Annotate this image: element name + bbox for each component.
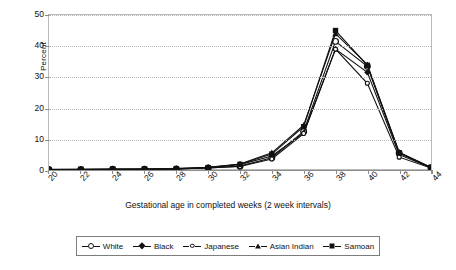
legend-label: Samoan xyxy=(344,242,374,251)
y-tick-mark xyxy=(45,140,49,141)
series-line xyxy=(49,31,431,170)
y-tick-label: 20 xyxy=(26,103,44,113)
data-point xyxy=(365,63,370,68)
plot-area xyxy=(48,14,432,170)
chart-container: Percent 01020304050 20222426283032343638… xyxy=(0,0,456,270)
gridline xyxy=(49,109,431,110)
x-axis-title: Gestational age in completed weeks (2 we… xyxy=(0,200,456,210)
y-tick-label: 0 xyxy=(26,165,44,175)
data-point xyxy=(333,28,338,33)
series-asian-indian xyxy=(49,30,431,170)
data-point xyxy=(334,47,338,51)
data-point xyxy=(301,124,306,129)
legend-label: Japanese xyxy=(204,242,239,251)
data-point xyxy=(397,155,401,159)
data-point xyxy=(237,162,242,167)
series-line xyxy=(49,34,431,170)
chart-legend: WhiteBlackJapaneseAsian IndianSamoan xyxy=(76,236,380,256)
gridline xyxy=(49,140,431,141)
data-point xyxy=(270,157,274,161)
legend-item-asian-indian[interactable]: Asian Indian xyxy=(249,241,314,251)
x-axis-tick-labels: 20222426283032343638404244 xyxy=(48,174,432,200)
legend-label: Asian Indian xyxy=(270,242,314,251)
data-point xyxy=(269,151,274,156)
gridline xyxy=(49,15,431,16)
gridline xyxy=(49,46,431,47)
data-point xyxy=(302,132,306,136)
y-tick-mark xyxy=(45,77,49,78)
legend-item-samoan[interactable]: Samoan xyxy=(323,241,374,251)
gridline xyxy=(49,77,431,78)
legend-item-white[interactable]: White xyxy=(82,241,123,251)
y-tick-mark xyxy=(45,46,49,47)
series-white xyxy=(49,38,431,170)
legend-label: White xyxy=(103,242,123,251)
legend-item-japanese[interactable]: Japanese xyxy=(183,241,239,251)
legend-item-black[interactable]: Black xyxy=(133,241,174,251)
series-canvas xyxy=(49,15,431,170)
legend-label: Black xyxy=(154,242,174,251)
y-axis-tick-labels: 01020304050 xyxy=(24,0,44,270)
legend-marker-icon xyxy=(183,241,201,251)
legend-marker-icon xyxy=(249,241,267,251)
y-tick-label: 50 xyxy=(26,9,44,19)
series-line xyxy=(49,41,431,169)
y-tick-mark xyxy=(45,15,49,16)
legend-marker-icon xyxy=(323,241,341,251)
y-tick-label: 30 xyxy=(26,71,44,81)
y-tick-label: 40 xyxy=(26,40,44,50)
legend-marker-icon xyxy=(82,241,100,251)
y-tick-label: 10 xyxy=(26,134,44,144)
data-point xyxy=(396,150,401,155)
y-tick-mark xyxy=(45,109,49,110)
data-point xyxy=(365,81,369,85)
legend-marker-icon xyxy=(133,241,151,251)
